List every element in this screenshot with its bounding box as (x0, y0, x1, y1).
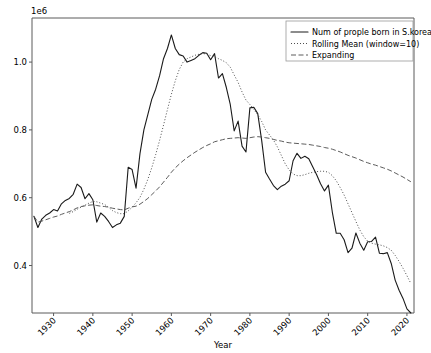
y-tick-label: 0.6 (13, 193, 27, 203)
chart-figure: 0.40.60.81.0 193019401950196019701980199… (0, 0, 431, 353)
y-axis-offset-label: 1e6 (31, 6, 47, 16)
y-tick-label: 0.4 (13, 261, 27, 271)
chart-legend[interactable]: Num of prople born in S.koreaRolling Mea… (286, 21, 431, 61)
x-axis-label: Year (213, 340, 233, 350)
y-tick-label: 0.8 (13, 125, 27, 135)
legend-label-0: Num of prople born in S.korea (312, 28, 431, 37)
line-chart-canvas: 0.40.60.81.0 193019401950196019701980199… (0, 0, 431, 353)
legend-label-1: Rolling Mean (window=10) (312, 40, 419, 49)
y-tick-label: 1.0 (13, 57, 27, 67)
legend-label-2: Expanding (312, 51, 354, 60)
